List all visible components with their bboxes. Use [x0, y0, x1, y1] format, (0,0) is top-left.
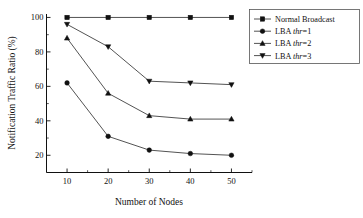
data-point-marker: [229, 153, 234, 158]
x-tick-label: 10: [63, 176, 72, 186]
data-point-marker: [64, 22, 69, 27]
x-tick-label: 30: [145, 176, 154, 186]
data-point-marker: [147, 15, 151, 19]
legend-label: LBA thr=2: [275, 39, 311, 48]
data-point-marker: [260, 17, 264, 21]
y-tick-label: 100: [31, 12, 44, 22]
data-point-marker: [106, 15, 110, 19]
data-point-marker: [229, 83, 234, 88]
y-tick-label: 80: [35, 47, 44, 57]
series-line: [67, 38, 231, 119]
legend-label: LBA thr=3: [275, 52, 311, 61]
data-point-marker: [65, 15, 69, 19]
data-point-marker: [147, 113, 152, 118]
data-point-marker: [260, 29, 265, 34]
chart-series: [64, 35, 234, 121]
data-point-marker: [188, 15, 192, 19]
data-point-marker: [106, 134, 111, 139]
x-tick-label: 20: [104, 176, 113, 186]
data-point-marker: [188, 151, 193, 156]
chart-series: [64, 22, 234, 87]
x-tick-label: 40: [186, 176, 195, 186]
x-axis-title: Number of Nodes: [115, 197, 183, 207]
x-tick-labels: 1020304050: [63, 176, 236, 186]
y-axis-title: Notification Traffic Ratio (%): [7, 36, 18, 150]
data-point-marker: [64, 35, 69, 40]
y-axis-ticks: [47, 17, 51, 172]
x-axis-ticks: [47, 169, 253, 173]
data-point-marker: [229, 15, 233, 19]
series-line: [67, 24, 231, 84]
x-tick-label: 50: [227, 176, 236, 186]
chart-legend: Normal BroadcastLBA thr=1LBA thr=2LBA th…: [250, 10, 360, 64]
data-point-marker: [147, 148, 152, 153]
legend-label: Normal Broadcast: [275, 15, 336, 24]
y-tick-label: 60: [35, 81, 44, 91]
chart-series: [65, 15, 234, 19]
chart-figure: 20406080100 1020304050 Notification Traf…: [0, 0, 363, 218]
y-tick-label: 20: [35, 150, 44, 160]
data-point-marker: [65, 81, 70, 86]
y-tick-labels: 20406080100: [31, 12, 44, 160]
chart-series-group: [64, 15, 234, 157]
y-tick-label: 40: [35, 116, 44, 126]
legend-label: LBA thr=1: [275, 27, 311, 36]
